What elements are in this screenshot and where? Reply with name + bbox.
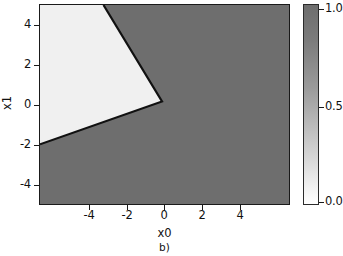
ytick-mark <box>34 105 39 106</box>
colorbar-tick-label: 1.0 <box>325 1 343 15</box>
xtick-label: -2 <box>107 208 147 222</box>
decision-boundary <box>40 5 289 204</box>
xtick-label: 2 <box>182 208 222 222</box>
colorbar: 1.0 0.5 0.0 <box>303 4 319 205</box>
ytick-mark <box>34 25 39 26</box>
colorbar-tick-mark <box>319 9 324 10</box>
y-axis-label: x1 <box>0 88 14 118</box>
xtick-label: -4 <box>69 208 109 222</box>
xtick-label: 0 <box>144 208 184 222</box>
colorbar-tick-label: 0.0 <box>325 194 343 208</box>
ytick-mark <box>34 185 39 186</box>
colorbar-gradient <box>303 4 319 205</box>
ytick-mark <box>34 65 39 66</box>
figure-caption: b) <box>39 241 290 253</box>
ytick-mark <box>34 145 39 146</box>
ytick-label: 2 <box>0 57 31 71</box>
colorbar-tick-mark <box>319 202 324 203</box>
colorbar-tick-mark <box>319 107 324 108</box>
colorbar-tick-label: 0.5 <box>325 99 343 113</box>
ytick-label: 4 <box>0 17 31 31</box>
xtick-label: 4 <box>220 208 260 222</box>
x-axis-label: x0 <box>39 226 290 240</box>
ytick-label: -2 <box>0 137 31 151</box>
plot-area <box>39 4 290 205</box>
ytick-label: -4 <box>0 177 31 191</box>
